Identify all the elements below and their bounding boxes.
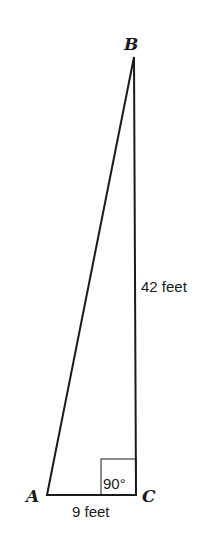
side-label-vertical: 42 feet (141, 278, 188, 295)
vertex-label-b: B (123, 34, 138, 54)
right-angle-label: 90° (103, 475, 126, 492)
vertex-label-a: A (24, 486, 39, 506)
vertex-label-c: C (142, 486, 156, 506)
side-label-horizontal: 9 feet (72, 503, 110, 520)
triangle-shape (47, 57, 136, 495)
triangle-diagram: 90° B A C 42 feet 9 feet (0, 0, 210, 541)
